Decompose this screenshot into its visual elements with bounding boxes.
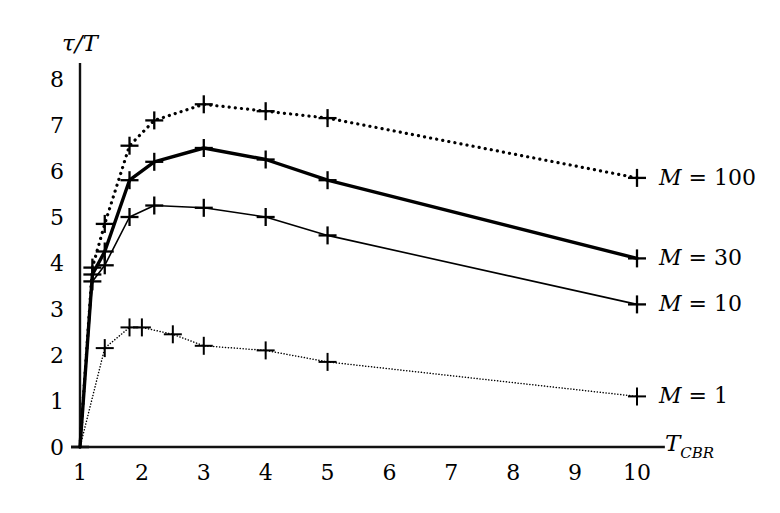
x-tick-label: 1 <box>73 460 87 485</box>
data-point-marker <box>319 109 337 127</box>
axis-titles: τ/TTCBR <box>62 30 714 462</box>
y-tick-label: 8 <box>50 67 64 92</box>
chart-canvas: 01234567812345678910 M = 100M = 30M = 10… <box>0 0 780 513</box>
series-line-100 <box>80 104 637 447</box>
y-tick-label: 0 <box>50 435 64 460</box>
y-tick-label: 7 <box>50 113 64 138</box>
series-line-1 <box>80 327 637 447</box>
chart-figure: 01234567812345678910 M = 100M = 30M = 10… <box>0 0 780 513</box>
x-tick-label: 8 <box>506 460 520 485</box>
tick-labels: 01234567812345678910 <box>50 67 651 485</box>
data-point-marker <box>164 325 182 343</box>
data-point-marker <box>257 151 275 169</box>
data-point-marker <box>319 171 337 189</box>
x-tick-label: 3 <box>197 460 211 485</box>
series-label-30: M = 30 <box>658 245 742 270</box>
y-tick-label: 3 <box>50 297 64 322</box>
x-tick-label: 7 <box>444 460 458 485</box>
data-point-marker <box>257 208 275 226</box>
series-label-100: M = 100 <box>658 165 756 190</box>
y-tick-label: 2 <box>50 343 64 368</box>
series-labels: M = 100M = 30M = 10M = 1 <box>658 165 756 409</box>
data-point-marker <box>195 139 213 157</box>
data-point-marker <box>319 226 337 244</box>
x-tick-label: 6 <box>382 460 396 485</box>
data-point-marker <box>628 249 646 267</box>
data-point-marker <box>195 95 213 113</box>
y-tick-label: 1 <box>50 389 64 414</box>
series-lines <box>80 104 637 447</box>
data-point-marker <box>195 199 213 217</box>
series-label-10: M = 10 <box>658 291 742 316</box>
data-point-marker <box>257 102 275 120</box>
y-tick-label: 4 <box>50 251 64 276</box>
data-point-marker <box>121 208 139 226</box>
data-point-marker <box>145 197 163 215</box>
data-point-marker <box>628 387 646 405</box>
data-point-marker <box>257 341 275 359</box>
series-line-10 <box>80 206 637 448</box>
x-tick-label: 5 <box>321 460 335 485</box>
data-point-marker <box>96 339 114 357</box>
series-markers <box>83 95 646 405</box>
x-tick-label: 10 <box>623 460 651 485</box>
series-line-30 <box>80 148 637 447</box>
series-label-1: M = 1 <box>658 383 728 408</box>
y-tick-label: 6 <box>50 159 64 184</box>
data-point-marker <box>319 353 337 371</box>
y-axis-title: τ/T <box>62 30 99 56</box>
data-point-marker <box>96 256 114 274</box>
x-tick-label: 2 <box>135 460 149 485</box>
data-point-marker <box>195 337 213 355</box>
data-point-marker <box>133 318 151 336</box>
data-point-marker <box>628 169 646 187</box>
x-tick-label: 4 <box>259 460 273 485</box>
x-tick-label: 9 <box>568 460 582 485</box>
data-point-marker <box>628 295 646 313</box>
x-axis-title: TCBR <box>665 430 714 462</box>
y-tick-label: 5 <box>50 205 64 230</box>
